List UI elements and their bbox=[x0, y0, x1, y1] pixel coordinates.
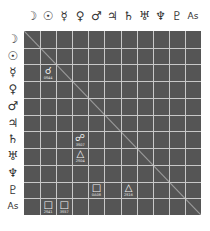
sun-row-header: ☉ bbox=[4, 48, 22, 65]
diagonal-line bbox=[24, 31, 201, 215]
orb-label: 0A08 bbox=[92, 193, 101, 197]
square-icon: □ bbox=[59, 200, 68, 210]
jupiter-column-header: ♃ bbox=[104, 9, 120, 23]
orb-label: 2S16 bbox=[124, 193, 133, 197]
grid-line bbox=[24, 48, 201, 49]
venus-column-header: ♀ bbox=[72, 9, 88, 23]
conjunction-aspect-cell[interactable]: ☌0S44 bbox=[40, 64, 56, 81]
square-icon: □ bbox=[43, 200, 52, 210]
orb-label: 2S41 bbox=[44, 210, 53, 214]
mercury-row-header: ☿ bbox=[4, 64, 22, 81]
grid-line bbox=[153, 31, 154, 215]
neptune-row-header: ♆ bbox=[4, 165, 22, 182]
grid-line bbox=[24, 115, 201, 116]
opposition-aspect-cell[interactable]: ☍3S07 bbox=[72, 131, 88, 148]
trine-aspect-cell[interactable]: △2S16 bbox=[121, 182, 137, 199]
moon-row-header: ☽ bbox=[4, 31, 22, 48]
trine-icon: △ bbox=[125, 183, 133, 193]
ascendant-row-header: As bbox=[4, 198, 22, 215]
grid-line bbox=[104, 31, 105, 215]
square-aspect-cell[interactable]: □0A08 bbox=[88, 182, 104, 199]
aspect-grid: ☌0S44☍3S07△2S04□0A08△2S16□2S41□3S57 bbox=[24, 31, 201, 215]
grid-line bbox=[40, 31, 41, 215]
square-icon: □ bbox=[92, 183, 101, 193]
uranus-row-header: ♅ bbox=[4, 148, 22, 165]
pluto-column-header: ♇ bbox=[169, 9, 185, 23]
grid-line bbox=[24, 182, 201, 183]
grid-line bbox=[24, 131, 201, 132]
uranus-column-header: ♅ bbox=[137, 9, 153, 23]
grid-line bbox=[169, 31, 170, 215]
orb-label: 3S07 bbox=[76, 143, 85, 147]
saturn-column-header: ♄ bbox=[121, 9, 137, 23]
saturn-row-header: ♄ bbox=[4, 131, 22, 148]
mars-row-header: ♂ bbox=[4, 98, 22, 115]
grid-line bbox=[56, 31, 57, 215]
conjunction-icon: ☌ bbox=[45, 66, 52, 76]
grid-line bbox=[72, 31, 73, 215]
venus-row-header: ♀ bbox=[4, 81, 22, 98]
square-aspect-cell[interactable]: □2S41 bbox=[40, 198, 56, 215]
grid-line bbox=[24, 165, 201, 166]
neptune-column-header: ♆ bbox=[153, 9, 169, 23]
mercury-column-header: ☿ bbox=[56, 9, 72, 23]
ascendant-column-header: As bbox=[185, 9, 201, 23]
orb-label: 3S57 bbox=[60, 210, 69, 214]
jupiter-row-header: ♃ bbox=[4, 115, 22, 132]
square-aspect-cell[interactable]: □3S57 bbox=[56, 198, 72, 215]
trine-aspect-cell[interactable]: △2S04 bbox=[72, 148, 88, 165]
orb-label: 2S04 bbox=[76, 159, 85, 163]
pluto-row-header: ♇ bbox=[4, 182, 22, 199]
grid-line bbox=[185, 31, 186, 215]
sun-column-header: ☉ bbox=[40, 9, 56, 23]
grid-line bbox=[137, 31, 138, 215]
grid-line bbox=[24, 98, 201, 99]
grid-line bbox=[24, 81, 201, 82]
opposition-icon: ☍ bbox=[75, 133, 85, 143]
trine-icon: △ bbox=[76, 149, 84, 159]
grid-line bbox=[24, 148, 201, 149]
orb-label: 0S44 bbox=[44, 76, 53, 80]
moon-column-header: ☽ bbox=[24, 9, 40, 23]
mars-column-header: ♂ bbox=[88, 9, 104, 23]
